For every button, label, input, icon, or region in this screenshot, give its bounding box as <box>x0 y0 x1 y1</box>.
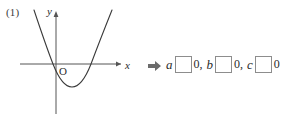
x-axis <box>20 62 121 67</box>
term-b: b 0 , <box>206 56 247 73</box>
answer-expression-row: a 0 , b 0 , c 0 <box>148 52 280 76</box>
comparison-value-a: 0 <box>193 58 200 71</box>
parabola-curve <box>34 10 112 87</box>
variable-c-label: c <box>246 58 254 71</box>
y-axis-label: y <box>46 5 52 17</box>
variable-b-label: b <box>206 58 215 71</box>
term-a: a 0 , <box>165 56 206 73</box>
answer-box-b[interactable] <box>215 56 232 73</box>
origin-label: O <box>59 65 67 77</box>
y-axis <box>54 11 59 114</box>
parabola-graph-figure: x y O <box>18 2 138 117</box>
worksheet-page: (1) x y O <box>0 0 288 119</box>
answer-box-c[interactable] <box>255 56 272 73</box>
x-axis-label: x <box>124 59 130 71</box>
comparison-value-b: 0 <box>233 58 240 71</box>
answer-box-a[interactable] <box>175 56 192 73</box>
rightwards-arrow-icon <box>148 58 162 70</box>
term-c: c 0 <box>246 56 280 73</box>
comparison-value-c: 0 <box>273 58 280 71</box>
variable-a-label: a <box>165 58 174 71</box>
